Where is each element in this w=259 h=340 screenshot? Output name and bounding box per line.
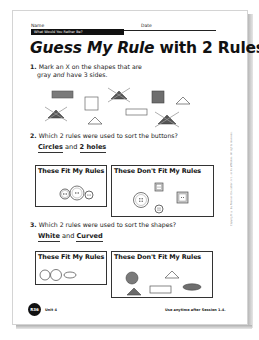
- shape-gray-square[interactable]: [152, 91, 164, 103]
- q3-fit-shapes: [36, 252, 108, 286]
- q3-answer-b: Curved: [76, 232, 102, 242]
- q3-text: Which 2 rules were used to sort the shap…: [39, 221, 176, 228]
- q3-dont-fit-shapes: [112, 252, 214, 299]
- q2-dont-fit-buttons: [112, 166, 215, 218]
- question-3: 3. Which 2 rules were used to sort the s…: [30, 221, 176, 229]
- q3-number: 3.: [30, 221, 37, 228]
- shape-white-circle-2: [51, 270, 62, 281]
- q3-dont-fit-box: These Don't Fit My Rules: [111, 251, 213, 298]
- q3-answer-and: and: [60, 232, 77, 240]
- question-2: 2. Which 2 rules were used to sort the b…: [30, 132, 178, 140]
- shape-white-circle: [40, 270, 50, 280]
- shape-white-triangle-right[interactable]: [176, 97, 190, 104]
- shape-gray-circle: [126, 272, 138, 284]
- button-circle-2holes-small: [85, 191, 93, 199]
- q2-answer-a: Circles: [38, 143, 63, 153]
- q2-text: Which 2 rules were used to sort the butt…: [39, 132, 178, 139]
- session-note: Use anytime after Session 1.4.: [165, 308, 226, 312]
- shape-gray-triangle: [127, 288, 141, 295]
- shape-gray-triangle-marked-right[interactable]: [155, 112, 179, 127]
- shape-white-rectangle: [150, 286, 171, 293]
- button-circle-2holes: [60, 189, 70, 199]
- copyright-note: Copyright © by Pearson Education, Inc., …: [230, 171, 233, 226]
- shape-gray-triangle-marked[interactable]: [108, 88, 130, 102]
- q3-answer: White and Curved: [38, 232, 103, 240]
- button-square-2holes: [155, 183, 163, 191]
- q2-fit-buttons: [36, 166, 108, 208]
- shape-white-oval: [64, 272, 76, 278]
- button-circle-2holes-large: [70, 186, 84, 200]
- q3-fit-box: These Fit My Rules: [35, 251, 107, 285]
- q2-answer-b: 2 holes: [80, 143, 107, 153]
- unit-label: Unit 4: [45, 308, 57, 312]
- shape-gray-oval: [183, 284, 201, 290]
- shape-white-rectangle[interactable]: [126, 109, 147, 115]
- q2-dont-fit-box: These Don't Fit My Rules: [111, 165, 214, 217]
- button-circle-4holes-small: [155, 205, 163, 213]
- button-square-2holes-large: [177, 192, 188, 203]
- q2-fit-box: These Fit My Rules: [35, 165, 107, 207]
- shape-gray-rectangle[interactable]: [52, 91, 73, 98]
- shape-white-square[interactable]: [85, 97, 98, 110]
- q3-answer-a: White: [38, 232, 60, 242]
- worksheet-page: Name Date What Would You Rather Be? Gues…: [12, 10, 248, 325]
- q2-answer-and: and: [63, 143, 80, 151]
- shape-gray-triangle-marked-left[interactable]: [45, 107, 67, 121]
- q2-answer: Circles and 2 holes: [38, 143, 106, 151]
- page-badge: R36: [28, 303, 41, 316]
- button-circle-4holes-large: [134, 193, 149, 208]
- shape-white-triangle: [165, 271, 179, 278]
- shape-white-triangle-bottom[interactable]: [88, 117, 102, 124]
- q2-number: 2.: [30, 132, 37, 139]
